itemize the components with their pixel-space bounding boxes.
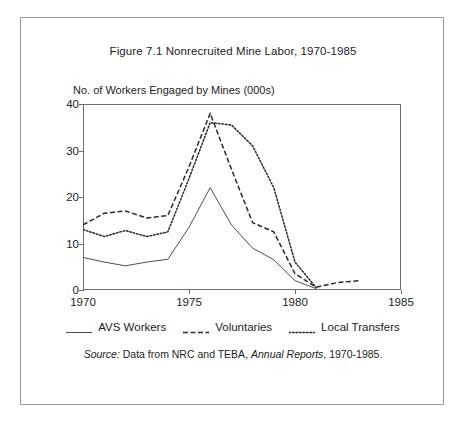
chart-lines xyxy=(83,104,401,290)
series-line-avs-workers xyxy=(83,188,316,289)
x-tick-mark xyxy=(189,290,190,294)
y-axis-ticks: 010203040 xyxy=(49,104,79,290)
source-publication: Annual Reports xyxy=(251,348,323,360)
y-axis-title: No. of Workers Engaged by Mines (000s) xyxy=(73,84,275,96)
y-tick-label: 20 xyxy=(55,191,79,203)
source-note: Source: Data from NRC and TEBA, Annual R… xyxy=(21,348,445,360)
x-tick-mark xyxy=(295,290,296,294)
legend-label: Local Transfers xyxy=(321,321,400,333)
y-tick-label: 0 xyxy=(55,284,79,296)
legend-item-local-transfers[interactable]: Local Transfers xyxy=(289,321,400,333)
source-text-last: , 1970-1985. xyxy=(323,348,382,360)
x-tick-label: 1975 xyxy=(176,296,202,308)
x-tick-mark xyxy=(401,290,402,294)
source-label: Source: xyxy=(84,348,120,360)
y-tick-label: 30 xyxy=(55,145,79,157)
series-line-local-transfers xyxy=(83,123,316,288)
y-tick-label: 40 xyxy=(55,98,79,110)
legend-swatch-dashed-icon xyxy=(183,323,209,332)
figure-border: Figure 7.1 Nonrecruited Mine Labor, 1970… xyxy=(20,17,444,405)
legend-label: Voluntaries xyxy=(215,321,272,333)
source-text-first: Data from NRC and TEBA, xyxy=(120,348,251,360)
series-line-voluntaries xyxy=(83,113,359,287)
x-axis-ticks: 1970197519801985 xyxy=(83,290,401,314)
chart-legend: AVS WorkersVoluntariesLocal Transfers xyxy=(21,321,445,333)
plot-area xyxy=(83,104,401,290)
legend-item-voluntaries[interactable]: Voluntaries xyxy=(183,321,272,333)
x-tick-label: 1980 xyxy=(282,296,308,308)
x-tick-label: 1970 xyxy=(70,296,96,308)
legend-label: AVS Workers xyxy=(98,321,166,333)
figure-title: Figure 7.1 Nonrecruited Mine Labor, 1970… xyxy=(21,45,445,57)
x-tick-label: 1985 xyxy=(388,296,414,308)
y-tick-label: 10 xyxy=(55,238,79,250)
legend-swatch-solid-icon xyxy=(66,323,92,332)
legend-swatch-dotted-icon xyxy=(289,323,315,332)
legend-item-avs-workers[interactable]: AVS Workers xyxy=(66,321,166,333)
